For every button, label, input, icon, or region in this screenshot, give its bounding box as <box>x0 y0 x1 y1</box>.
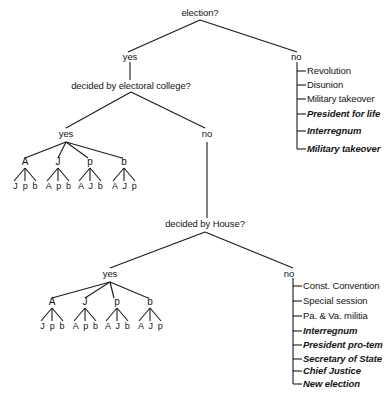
leaf-children: A J b <box>78 182 104 191</box>
edge-ec-yes-p <box>66 142 88 158</box>
decision-tree-diagram: election? yes no decided by electoral co… <box>0 0 385 401</box>
edge-house-yes <box>110 232 205 268</box>
edge-root-no <box>200 20 297 52</box>
house-yes-label: yes <box>103 269 117 279</box>
root-no-label: no <box>291 52 301 62</box>
leaf-letter: A <box>22 157 29 167</box>
leaf-letter: p <box>87 157 92 167</box>
outcome-item: Revolution <box>307 66 351 76</box>
edge-root-yes <box>128 20 200 52</box>
leaf-letter: b <box>147 297 152 307</box>
leaf-children: A J p <box>112 182 138 191</box>
house-question: decided by House? <box>165 219 245 229</box>
leaf-fan-group-ec <box>14 168 135 181</box>
leaf-letter: J <box>56 157 61 167</box>
leaf-children: A p b <box>46 182 73 191</box>
leaf-letter: b <box>121 157 126 167</box>
leaf-children: A p b <box>73 322 100 331</box>
outcome-item: Secretary of State <box>303 354 382 364</box>
electoral-no-label: no <box>202 129 212 139</box>
electoral-college-question: decided by electoral college? <box>71 81 191 91</box>
edge-house-no <box>205 232 293 268</box>
root-yes-label: yes <box>123 52 137 62</box>
outcome-item: President pro-tem <box>303 340 383 350</box>
leaf-children: J p b <box>13 182 39 191</box>
leaf-letter: A <box>49 297 56 307</box>
leaf-letter: p <box>114 297 119 307</box>
outcome-item: Special session <box>303 296 368 306</box>
electoral-yes-label: yes <box>59 129 73 139</box>
leaf-children: J p b <box>40 322 66 331</box>
edge-house-yes-J <box>85 282 110 298</box>
house-no-label: no <box>284 269 294 279</box>
outcome-item: Military takeover <box>307 94 374 104</box>
outcome-item: Military takeover <box>307 144 380 154</box>
root-question: election? <box>181 8 218 18</box>
edge-house-yes-A <box>52 282 110 298</box>
edge-electoral-no <box>131 92 205 128</box>
outcome-item: Pa. & Va. militia <box>303 311 368 321</box>
outcome-item: New election <box>303 379 360 389</box>
leaf-children: A J p <box>138 322 164 331</box>
outcome-item: Interregnum <box>303 326 357 336</box>
outcome-item: Chief Justice <box>303 366 361 376</box>
edge-ec-yes-b <box>66 142 122 158</box>
outcome-item: Interregnum <box>307 126 361 136</box>
outcome-item: Disunion <box>307 80 343 90</box>
comb-no-election <box>297 62 306 149</box>
outcome-item: Const. Convention <box>303 281 379 291</box>
leaf-fan-group-house <box>41 308 161 321</box>
leaf-letter: J <box>83 297 88 307</box>
outcome-item: President for life <box>307 109 380 119</box>
edge-electoral-yes <box>66 92 131 128</box>
leaf-children: A J b <box>105 322 131 331</box>
comb-no-house <box>293 278 302 384</box>
